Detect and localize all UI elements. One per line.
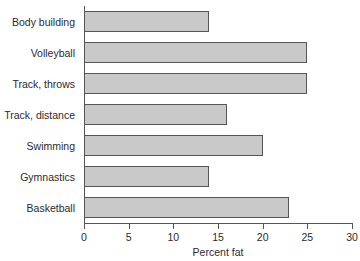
x-axis-tick-marks: [84, 224, 352, 230]
x-tick-label: 10: [167, 231, 179, 243]
x-tick-label: 25: [301, 231, 313, 243]
x-tick-label: 0: [81, 231, 87, 243]
x-axis-tick-labels: 051015202530: [84, 231, 352, 245]
category-label: Basketball: [0, 197, 80, 219]
x-tick-mark: [218, 224, 219, 229]
category-label: Swimming: [0, 135, 80, 157]
category-label: Track, distance: [0, 104, 80, 126]
plot-area: [84, 6, 352, 223]
bar-row: [84, 11, 352, 33]
bar-chart: Body building Volleyball Track, throws T…: [0, 0, 360, 261]
x-tick-mark: [129, 224, 130, 229]
bar-series: [84, 6, 352, 223]
x-tick-label: 20: [257, 231, 269, 243]
bar-row: [84, 166, 352, 188]
x-tick-mark: [84, 224, 85, 229]
x-tick-mark: [352, 224, 353, 229]
bar: [84, 42, 307, 63]
bar-row: [84, 197, 352, 219]
x-tick-label: 15: [212, 231, 224, 243]
bar-row: [84, 42, 352, 64]
bar: [84, 197, 289, 218]
bar-row: [84, 73, 352, 95]
category-label: Body building: [0, 11, 80, 33]
category-label: Track, throws: [0, 73, 80, 95]
x-tick-label: 5: [126, 231, 132, 243]
x-tick-label: 30: [346, 231, 358, 243]
bar: [84, 73, 307, 94]
bar-row: [84, 104, 352, 126]
x-tick-mark: [307, 224, 308, 229]
bar: [84, 104, 227, 125]
x-axis-title: Percent fat: [84, 246, 352, 258]
bar: [84, 166, 209, 187]
bar: [84, 11, 209, 32]
x-tick-mark: [173, 224, 174, 229]
category-label: Volleyball: [0, 42, 80, 64]
bar: [84, 135, 263, 156]
category-axis-labels: Body building Volleyball Track, throws T…: [0, 6, 80, 223]
category-label: Gymnastics: [0, 166, 80, 188]
bar-row: [84, 135, 352, 157]
x-tick-mark: [263, 224, 264, 229]
